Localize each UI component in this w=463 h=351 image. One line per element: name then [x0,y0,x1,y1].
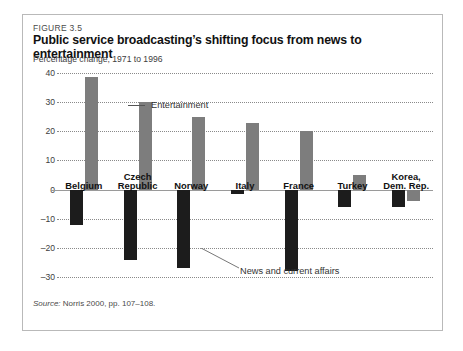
y-tick-label: 40 [33,68,55,78]
bar-news [124,190,137,260]
y-tick-label: 30 [33,97,55,107]
bar-entertainment [407,190,420,202]
entertainment-leader-line [128,105,145,106]
bar-news [177,190,190,269]
figure-subtitle: Percentage change, 1971 to 1996 [33,54,163,64]
y-tick-label: 10 [33,155,55,165]
source-note: Source: Norris 2000, pp. 107–108. [33,299,155,308]
bar-news [285,190,298,272]
category-label: Korea, Dem. Rep. [360,171,452,190]
bar-news [392,190,405,208]
figure-number: FIGURE 3.5 [33,23,82,33]
bar-news [70,190,83,225]
y-tick-label: –20 [33,243,55,253]
news-leader-line [201,248,239,270]
figure-frame: FIGURE 3.5 Public service broadcasting’s… [22,14,443,331]
y-tick-label: –30 [33,272,55,282]
y-tick-label: 20 [33,126,55,136]
source-text: Norris 2000, pp. 107–108. [61,299,156,308]
y-tick-label: –10 [33,214,55,224]
bar-groups: BelgiumCzech RepublicNorwayItalyFranceTu… [57,70,433,286]
bar-news [338,190,351,208]
news-annotation: News and current affairs [240,266,339,276]
entertainment-annotation: Entertainment [151,100,208,110]
source-label: Source: [33,299,61,308]
chart-plot-area: 403020100–10–20–30 BelgiumCzech Republic… [33,70,433,286]
bar-entertainment [192,117,205,190]
